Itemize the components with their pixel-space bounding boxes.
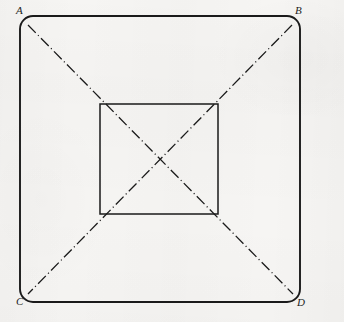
technical-drawing [0,0,344,322]
vertex-label-c: C [16,296,23,307]
vertex-label-a: A [16,5,23,16]
inner-square [100,104,218,214]
vertex-label-d: D [297,297,305,308]
vertex-label-b: B [295,5,302,16]
drawing-sheet: A B C D [0,0,344,322]
